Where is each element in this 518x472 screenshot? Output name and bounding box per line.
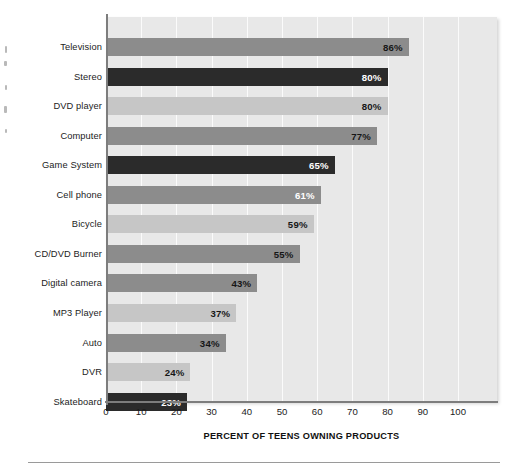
bar: 34% xyxy=(106,334,226,352)
category-label: Computer xyxy=(8,131,102,141)
category-label: Television xyxy=(8,42,102,52)
bar-value-label: 80% xyxy=(362,101,382,112)
bar: 61% xyxy=(106,186,321,204)
x-tick-label: 70 xyxy=(347,406,358,417)
x-tick-label: 40 xyxy=(241,406,252,417)
bar: 37% xyxy=(106,304,236,322)
bar-fill xyxy=(106,127,377,145)
chart-page: TelevisionStereoDVD playerComputerGame S… xyxy=(0,0,518,472)
bar-value-label: 65% xyxy=(309,160,329,171)
x-tick-label: 80 xyxy=(382,406,393,417)
bar: 86% xyxy=(106,38,409,56)
category-label: DVR xyxy=(8,367,102,377)
category-label: Digital camera xyxy=(8,278,102,288)
category-axis-labels: TelevisionStereoDVD playerComputerGame S… xyxy=(8,17,102,402)
y-axis-line xyxy=(106,14,108,405)
x-axis-title: PERCENT OF TEENS OWNING PRODUCTS xyxy=(106,431,497,441)
x-tick-label: 100 xyxy=(450,406,466,417)
bar-fill xyxy=(106,245,300,263)
x-tick-label: 30 xyxy=(206,406,217,417)
bar-fill xyxy=(106,97,388,115)
bar: 65% xyxy=(106,156,335,174)
bar: 80% xyxy=(106,68,388,86)
bar-value-label: 86% xyxy=(383,42,403,53)
bar: 43% xyxy=(106,274,257,292)
bar-value-label: 80% xyxy=(362,71,382,82)
bar-value-label: 55% xyxy=(274,248,294,259)
category-label: DVD player xyxy=(8,101,102,111)
x-tick-label: 10 xyxy=(136,406,147,417)
bar-fill xyxy=(106,186,321,204)
bar-value-label: 61% xyxy=(295,189,315,200)
bar-fill xyxy=(106,38,409,56)
gridline xyxy=(388,17,389,402)
footer-rule xyxy=(28,462,500,463)
category-label: CD/DVD Burner xyxy=(8,249,102,259)
bar-value-label: 77% xyxy=(351,130,371,141)
bar-value-label: 34% xyxy=(200,337,220,348)
bar-fill xyxy=(106,156,335,174)
category-label: Game System xyxy=(8,160,102,170)
gridline xyxy=(458,17,459,402)
x-tick-label: 50 xyxy=(277,406,288,417)
category-label: Cell phone xyxy=(8,190,102,200)
bar: 80% xyxy=(106,97,388,115)
x-tick-label: 60 xyxy=(312,406,323,417)
x-tick-label: 0 xyxy=(103,406,108,417)
bar-chart-figure: TelevisionStereoDVD playerComputerGame S… xyxy=(0,0,518,472)
category-label: MP3 Player xyxy=(8,308,102,318)
bar: 55% xyxy=(106,245,300,263)
bar-fill xyxy=(106,68,388,86)
x-tick-label: 20 xyxy=(171,406,182,417)
bar-value-label: 43% xyxy=(232,278,252,289)
gridline xyxy=(423,17,424,402)
x-axis-line xyxy=(105,401,498,403)
plot-area: 86%80%80%77%65%61%59%55%43%37%34%24%23% xyxy=(106,17,497,402)
bar: 24% xyxy=(106,363,190,381)
x-tick-label: 90 xyxy=(417,406,428,417)
bar-value-label: 24% xyxy=(165,367,185,378)
bar: 77% xyxy=(106,127,377,145)
bar: 59% xyxy=(106,215,314,233)
category-label: Auto xyxy=(8,338,102,348)
category-label: Stereo xyxy=(8,72,102,82)
category-label: Bicycle xyxy=(8,219,102,229)
x-axis-tick-labels: 0102030405060708090100 xyxy=(0,406,518,420)
bar-fill xyxy=(106,215,314,233)
bar-value-label: 59% xyxy=(288,219,308,230)
bar-value-label: 37% xyxy=(210,307,230,318)
